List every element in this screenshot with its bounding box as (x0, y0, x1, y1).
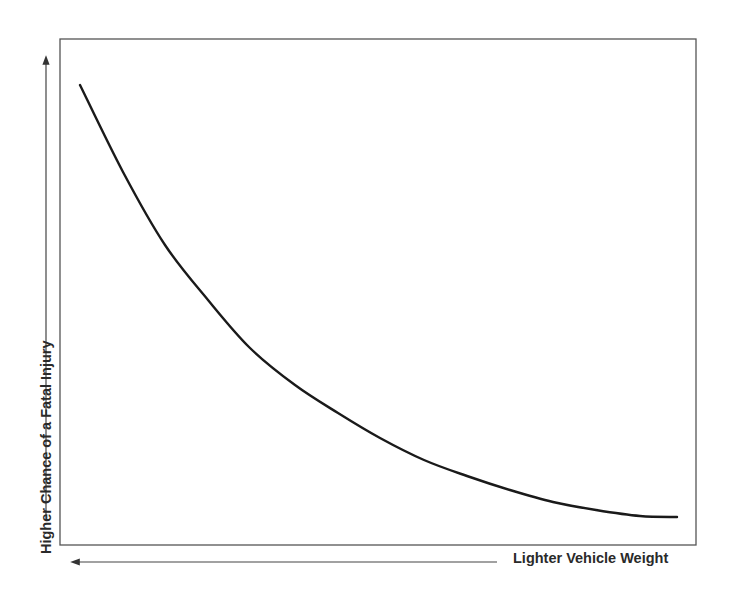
plot-frame (60, 39, 696, 545)
y-axis-label: Higher Chance of a Fatal Injury (38, 340, 54, 554)
chart-canvas (0, 0, 734, 603)
fatality-curve (80, 85, 677, 517)
x-axis-label: Lighter Vehicle Weight (513, 550, 668, 566)
